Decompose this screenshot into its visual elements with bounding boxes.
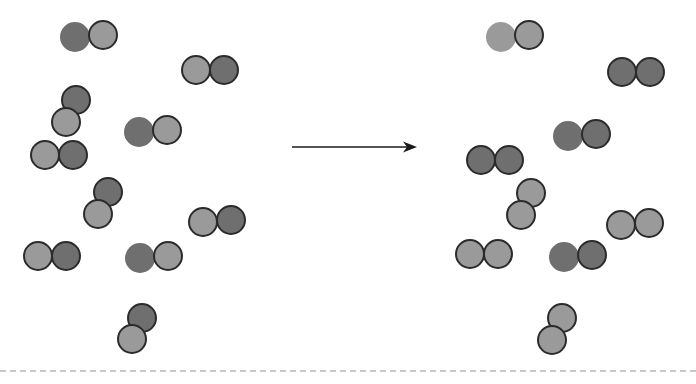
atom-dark	[209, 55, 239, 85]
atom-dark	[553, 121, 583, 151]
atom-light	[486, 22, 516, 52]
atom-dark	[577, 240, 607, 270]
atom-dark	[125, 243, 155, 273]
atom-light	[483, 239, 513, 269]
atom-light	[30, 140, 60, 170]
atom-light	[634, 208, 664, 238]
dashed-baseline	[0, 370, 696, 372]
reaction-diagram	[0, 0, 696, 384]
reaction-arrow	[291, 132, 419, 162]
atom-dark	[51, 241, 81, 271]
atom-dark	[60, 22, 90, 52]
products-panel	[420, 0, 696, 384]
reactants-panel	[0, 0, 290, 384]
atom-dark	[494, 145, 524, 175]
atom-light	[606, 210, 636, 240]
atom-light	[153, 241, 183, 271]
atom-light	[506, 200, 536, 230]
atom-dark	[124, 117, 154, 147]
atom-light	[455, 239, 485, 269]
atom-dark	[607, 57, 637, 87]
atom-light	[88, 20, 118, 50]
atom-light	[514, 20, 544, 50]
atom-dark	[58, 140, 88, 170]
atom-dark	[549, 242, 579, 272]
atom-light	[188, 207, 218, 237]
atom-dark	[216, 205, 246, 235]
atom-light	[537, 325, 567, 355]
atom-light	[51, 107, 81, 137]
atom-light	[117, 324, 147, 354]
atom-dark	[581, 119, 611, 149]
atom-light	[181, 55, 211, 85]
atom-dark	[635, 57, 665, 87]
atom-light	[152, 115, 182, 145]
atom-light	[23, 241, 53, 271]
atom-dark	[466, 145, 496, 175]
atom-light	[83, 199, 113, 229]
